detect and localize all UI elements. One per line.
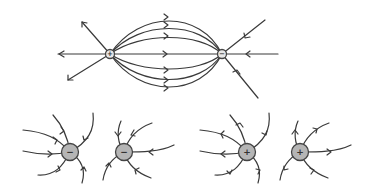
- arrow-icon: [262, 131, 267, 135]
- charge-sign: −: [219, 50, 225, 58]
- arrow-icon: [83, 136, 88, 140]
- field-line: [68, 54, 110, 80]
- arrow-icon: [164, 22, 168, 28]
- isolated-charge-negative-2: −: [103, 121, 174, 180]
- electric-field-diagram: + − − −: [0, 0, 369, 195]
- dipole: + −: [58, 14, 278, 98]
- positive-charge: +: [106, 50, 115, 59]
- field-line: [222, 54, 258, 98]
- field-line: [110, 29, 222, 55]
- charge-sign: +: [107, 50, 113, 58]
- arrow-icon: [310, 168, 314, 174]
- arrow-icon: [164, 85, 168, 91]
- field-line: [110, 54, 222, 69]
- charge-sign: +: [296, 147, 304, 157]
- isolated-charge-positive-1: +: [200, 113, 269, 183]
- arrow-icon: [164, 14, 168, 20]
- field-line: [222, 20, 265, 54]
- arrow-icon: [149, 149, 153, 155]
- charge-sign: −: [66, 147, 74, 157]
- arrow-icon: [164, 67, 168, 73]
- negative-charge: −: [218, 50, 227, 59]
- isolated-charge-negative-1: −: [23, 113, 93, 183]
- arrow-icon: [53, 137, 57, 144]
- field-line: [110, 54, 222, 80]
- charge-sign: −: [120, 147, 128, 157]
- arrow-icon: [60, 127, 64, 134]
- field-line: [82, 22, 110, 54]
- charge-sign: +: [243, 147, 251, 157]
- arrow-icon: [327, 149, 331, 155]
- arrow-icon: [284, 166, 288, 170]
- isolated-charge-positive-2: +: [280, 121, 351, 180]
